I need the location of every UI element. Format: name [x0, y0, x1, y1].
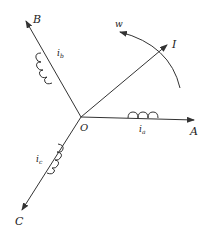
winding-diagram: B ib w I O ia A ic C — [0, 0, 210, 237]
rotation-w-label: w — [115, 20, 123, 29]
resultant-i-line — [81, 45, 167, 117]
current-a-label: ia — [139, 125, 145, 135]
coil-a-icon — [128, 112, 158, 118]
current-b-label: ib — [57, 49, 64, 59]
current-c-label: ic — [36, 155, 42, 165]
rotation-arc — [120, 32, 180, 88]
current-c-subscript: c — [39, 158, 42, 165]
current-b-subscript: b — [60, 52, 64, 59]
axis-b-line — [26, 21, 81, 117]
axis-c-label: C — [15, 216, 23, 227]
coil-b-icon — [36, 53, 52, 84]
origin-o-label: O — [80, 123, 88, 133]
diagram-graphic — [0, 0, 210, 237]
axis-b-label: B — [33, 14, 41, 25]
resultant-i-label: I — [172, 39, 176, 50]
current-a-subscript: a — [142, 128, 146, 135]
axis-a-label: A — [190, 126, 198, 137]
axis-c-line — [22, 117, 81, 210]
